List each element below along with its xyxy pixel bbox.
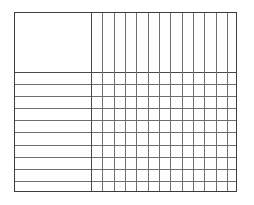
column-divider-12	[227, 13, 228, 191]
column-divider-10	[204, 13, 205, 191]
table-grid[interactable]	[14, 12, 237, 192]
column-divider-6	[159, 13, 160, 191]
screenshot-canvas	[0, 0, 254, 205]
column-divider-2	[114, 13, 115, 191]
row-label-10[interactable]	[15, 181, 91, 193]
row-label-6[interactable]	[15, 132, 91, 145]
row-label-4[interactable]	[15, 108, 91, 120]
row-label-7[interactable]	[15, 145, 91, 157]
column-divider-label	[91, 13, 92, 191]
column-divider-7	[170, 13, 171, 191]
column-divider-1	[102, 13, 103, 191]
column-divider-5	[148, 13, 149, 191]
row-label-1[interactable]	[15, 72, 91, 84]
column-divider-8	[182, 13, 183, 191]
column-divider-4	[136, 13, 137, 191]
table-header-label-cell[interactable]	[15, 13, 91, 72]
row-label-3[interactable]	[15, 96, 91, 108]
column-divider-11	[216, 13, 217, 191]
column-divider-9	[193, 13, 194, 191]
row-label-2[interactable]	[15, 84, 91, 96]
row-label-5[interactable]	[15, 120, 91, 132]
row-label-8[interactable]	[15, 157, 91, 169]
column-divider-3	[125, 13, 126, 191]
row-label-9[interactable]	[15, 169, 91, 181]
